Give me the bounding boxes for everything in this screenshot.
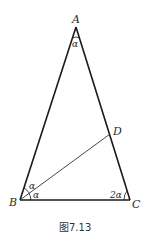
vertex-label-c: C	[132, 198, 141, 211]
side-ab	[20, 27, 76, 200]
angle-arc-c	[124, 191, 127, 200]
vertex-label-a: A	[71, 13, 80, 26]
vertex-label-d: D	[112, 125, 122, 138]
angle-label-c: 2α	[109, 190, 122, 200]
vertex-label-b: B	[8, 196, 17, 209]
triangle-diagram: A B C D α α α 2α 图7.13	[0, 0, 153, 245]
angle-label-a: α	[72, 39, 78, 49]
angle-label-b-lower: α	[33, 190, 39, 200]
angle-arc-a	[73, 37, 80, 38]
figure-caption: 图7.13	[59, 222, 91, 233]
side-ac	[76, 27, 130, 200]
